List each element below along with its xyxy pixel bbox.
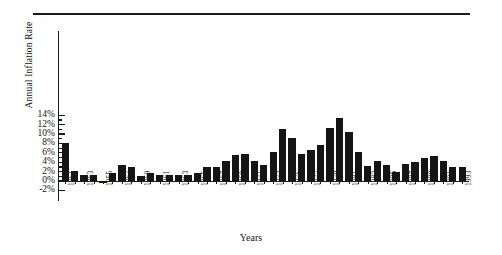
x-axis-tick-label: 1993 xyxy=(465,171,473,186)
y-axis-tick xyxy=(58,133,65,134)
y-axis-tick-labels: -2%0%2%4%6%8%10%12%14% xyxy=(10,0,55,255)
x-axis-tick xyxy=(122,181,123,184)
bar xyxy=(355,152,362,181)
y-axis-tick-label: 8% xyxy=(15,138,55,148)
x-axis-tick xyxy=(235,181,236,184)
x-axis-tick xyxy=(396,181,397,184)
x-axis-tick xyxy=(216,181,217,184)
y-axis-minor-tick xyxy=(58,129,62,130)
bar xyxy=(147,173,154,181)
x-axis-tick xyxy=(198,181,199,184)
y-axis-tick-label: 6% xyxy=(15,148,55,158)
bar xyxy=(374,161,381,181)
x-axis-tick xyxy=(150,181,151,184)
x-axis-tick xyxy=(302,181,303,184)
bar xyxy=(260,165,267,181)
y-axis-tick xyxy=(58,115,65,116)
x-axis-tick xyxy=(387,181,388,184)
x-axis-tick xyxy=(94,181,95,184)
bar xyxy=(222,161,229,181)
inflation-bar-chart-figure: Annual Inflation Rate -2%0%2%4%6%8%10%12… xyxy=(0,0,502,255)
x-axis-tick xyxy=(112,181,113,184)
bar xyxy=(109,173,116,181)
x-axis-tick xyxy=(169,181,170,184)
x-axis-tick xyxy=(330,181,331,184)
x-axis-tick xyxy=(368,181,369,184)
x-axis-tick xyxy=(358,181,359,184)
bar xyxy=(298,154,305,181)
x-axis-tick xyxy=(377,181,378,184)
x-axis-tick xyxy=(453,181,454,184)
bar xyxy=(392,172,399,181)
x-axis-tick xyxy=(160,181,161,184)
x-axis-tick xyxy=(141,181,142,184)
x-axis-tick xyxy=(188,181,189,184)
y-axis-tick-label: 12% xyxy=(15,120,55,130)
x-axis-tick xyxy=(84,181,85,184)
bar xyxy=(317,145,324,181)
x-axis-tick xyxy=(283,181,284,184)
x-axis-tick xyxy=(264,181,265,184)
y-axis-minor-tick xyxy=(58,138,62,139)
top-divider-rule xyxy=(33,13,470,15)
bar xyxy=(449,167,456,181)
y-axis-tick xyxy=(58,124,65,125)
x-axis-tick xyxy=(292,181,293,184)
x-axis-tick xyxy=(415,181,416,184)
bar xyxy=(71,171,78,181)
x-axis-tick xyxy=(339,181,340,184)
x-axis-tick xyxy=(245,181,246,184)
x-axis-title: Years xyxy=(0,232,502,243)
bar xyxy=(128,167,135,181)
x-axis-tick xyxy=(349,181,350,184)
y-axis-tick xyxy=(58,190,65,191)
x-axis-tick xyxy=(311,181,312,184)
y-axis-tick-label: 4% xyxy=(15,157,55,167)
x-axis-tick xyxy=(443,181,444,184)
x-axis-tick xyxy=(179,181,180,184)
x-axis-tick xyxy=(103,181,104,184)
x-axis-tick xyxy=(406,181,407,184)
x-axis-tick xyxy=(226,181,227,184)
y-axis-tick-label: 14% xyxy=(15,110,55,120)
x-axis-tick xyxy=(207,181,208,184)
bar xyxy=(241,154,248,181)
y-axis-minor-tick xyxy=(58,119,62,120)
bar xyxy=(430,156,437,181)
x-axis-tick xyxy=(320,181,321,184)
bar xyxy=(203,167,210,181)
x-axis-tick xyxy=(434,181,435,184)
bar xyxy=(336,118,343,181)
x-axis-tick xyxy=(75,181,76,184)
y-axis-tick-label: 2% xyxy=(15,167,55,177)
x-axis-tick xyxy=(424,181,425,184)
x-axis-tick xyxy=(131,181,132,184)
y-axis-tick-label: 10% xyxy=(15,129,55,139)
y-axis-tick-label: -2% xyxy=(15,185,55,195)
bar xyxy=(411,162,418,181)
bar xyxy=(279,129,286,181)
y-axis-tick-label: 0% xyxy=(15,176,55,186)
